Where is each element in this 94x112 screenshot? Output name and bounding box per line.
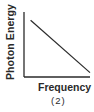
y-axis-label: Photon Energy bbox=[4, 4, 16, 80]
x-axis-label: Frequency bbox=[38, 81, 91, 93]
data-line-decreasing bbox=[31, 20, 90, 72]
figure-caption: (2) bbox=[51, 95, 66, 106]
